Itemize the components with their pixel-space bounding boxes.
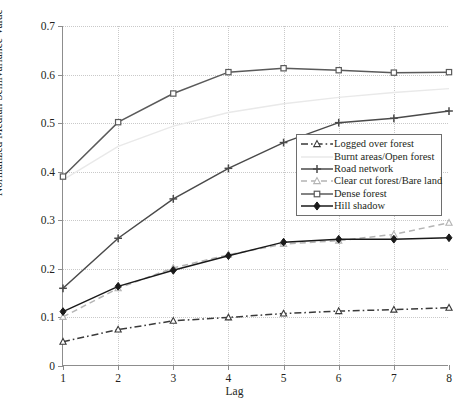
- data-point-triangle-open: [225, 314, 231, 320]
- data-point-square-open: [171, 91, 176, 96]
- data-point-triangle-open: [446, 304, 452, 310]
- y-tick-label: 0.7: [41, 20, 55, 32]
- series-0: [60, 304, 452, 344]
- legend-label: Burnt areas/Open forest: [334, 151, 434, 163]
- legend-line-sample: [300, 163, 334, 175]
- data-point-plus: [445, 107, 453, 115]
- data-point-triangle-open: [115, 326, 121, 332]
- legend: Logged over forestBurnt areas/Open fores…: [296, 134, 442, 216]
- data-point-square-open: [281, 66, 286, 71]
- legend-item[interactable]: Logged over forest: [300, 138, 437, 150]
- legend-item[interactable]: Hill shadow: [300, 200, 437, 212]
- legend-label: Road network: [334, 163, 393, 175]
- x-tick-label: 3: [170, 372, 176, 384]
- x-tick-label: 8: [446, 372, 452, 384]
- data-point-square-open: [391, 70, 396, 75]
- figure: Normalized Median Semivariance Value 00.…: [0, 0, 469, 412]
- legend-line-sample: [300, 175, 334, 187]
- x-tick-label: 7: [391, 372, 397, 384]
- data-point-square-open: [226, 70, 231, 75]
- y-tick-label: 0.2: [41, 263, 55, 275]
- data-point-plus: [280, 139, 288, 147]
- data-point-square-open: [314, 191, 320, 197]
- data-point-square-open: [446, 70, 451, 75]
- legend-line-sample: [300, 200, 334, 212]
- x-tick-label: 6: [336, 372, 342, 384]
- legend-line-sample: [300, 188, 334, 200]
- series-line: [63, 238, 449, 312]
- x-tick-label: 2: [115, 372, 121, 384]
- series-line: [63, 308, 449, 342]
- y-tick-label: 0.6: [41, 69, 55, 81]
- data-point-square-open: [336, 68, 341, 73]
- data-point-triangle-open: [446, 219, 452, 225]
- data-point-plus: [225, 164, 233, 172]
- legend-line-sample: [300, 151, 334, 163]
- data-point-square-open: [116, 120, 121, 125]
- legend-line-sample: [300, 138, 334, 150]
- data-point-diamond-filled: [60, 308, 66, 316]
- data-point-diamond-filled: [225, 252, 231, 260]
- data-point-square-open: [60, 174, 65, 179]
- legend-item[interactable]: Dense forest: [300, 188, 437, 200]
- x-tick-label: 4: [226, 372, 232, 384]
- x-tick-label: 5: [281, 372, 287, 384]
- y-axis-title: Normalized Median Semivariance Value: [0, 9, 4, 196]
- x-tick: [449, 365, 450, 370]
- legend-label: Logged over forest: [334, 138, 414, 150]
- data-point-triangle-open: [60, 338, 66, 344]
- legend-label: Clear cut forest/Bare land: [334, 175, 442, 187]
- data-point-triangle-open: [170, 318, 176, 324]
- x-tick-label: 1: [60, 372, 66, 384]
- legend-item[interactable]: Clear cut forest/Bare land: [300, 175, 437, 187]
- y-tick-label: 0.1: [41, 311, 55, 323]
- legend-label: Hill shadow: [334, 200, 385, 212]
- x-axis-title: Lag: [0, 385, 469, 397]
- data-point-plus: [335, 119, 343, 127]
- data-point-triangle-open: [336, 308, 342, 314]
- data-point-triangle-open: [391, 306, 397, 312]
- data-point-diamond-filled: [314, 202, 320, 210]
- legend-item[interactable]: Road network: [300, 163, 437, 175]
- y-tick-label: 0.5: [41, 117, 55, 129]
- data-point-plus: [390, 114, 398, 122]
- y-tick-label: 0.3: [41, 214, 55, 226]
- y-tick-label: 0: [49, 360, 55, 372]
- legend-item[interactable]: Burnt areas/Open forest: [300, 150, 437, 162]
- data-point-diamond-filled: [446, 234, 452, 242]
- legend-label: Dense forest: [334, 188, 387, 200]
- y-tick-label: 0.4: [41, 166, 55, 178]
- series-5: [60, 234, 452, 316]
- data-point-plus: [313, 165, 321, 173]
- data-point-triangle-open: [280, 310, 286, 316]
